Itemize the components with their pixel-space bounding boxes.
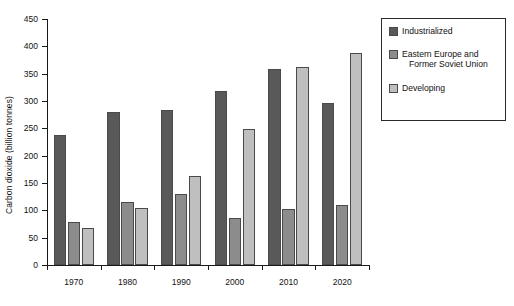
legend-swatch-icon bbox=[389, 50, 398, 59]
bar bbox=[229, 218, 242, 265]
bar-group bbox=[268, 19, 309, 265]
y-tick-label: 300 bbox=[0, 96, 38, 106]
legend-item[interactable]: Developing bbox=[389, 83, 499, 94]
x-tick-mark bbox=[369, 265, 370, 270]
bar-group bbox=[107, 19, 148, 265]
bar bbox=[121, 202, 134, 265]
legend-rows: IndustrializedEastern Europe andFormer S… bbox=[389, 26, 499, 93]
x-tick-label: 1990 bbox=[172, 277, 191, 287]
legend-label: Eastern Europe andFormer Soviet Union bbox=[402, 49, 488, 70]
y-tick-label: 350 bbox=[0, 69, 38, 79]
legend-swatch-icon bbox=[389, 84, 398, 93]
bar bbox=[243, 129, 256, 265]
bar-group bbox=[54, 19, 95, 265]
y-tick-label: 0 bbox=[0, 260, 38, 270]
bar bbox=[215, 91, 228, 265]
x-tick-mark bbox=[101, 265, 102, 270]
y-tick-label: 400 bbox=[0, 41, 38, 51]
bar bbox=[282, 209, 295, 265]
x-tick-label: 2020 bbox=[333, 277, 352, 287]
y-tick-label: 200 bbox=[0, 151, 38, 161]
x-tick-mark bbox=[315, 265, 316, 270]
x-tick-mark bbox=[47, 265, 48, 270]
x-tick-mark bbox=[208, 265, 209, 270]
bar bbox=[268, 69, 281, 265]
bar bbox=[350, 53, 363, 265]
y-tick-label: 50 bbox=[0, 233, 38, 243]
bar bbox=[175, 194, 188, 265]
y-tick-label: 150 bbox=[0, 178, 38, 188]
bar bbox=[336, 205, 349, 265]
legend-label: Industrialized bbox=[402, 26, 453, 37]
bar bbox=[189, 176, 202, 265]
bar bbox=[161, 110, 174, 265]
x-tick-label: 1980 bbox=[118, 277, 137, 287]
bar-group bbox=[215, 19, 256, 265]
bar bbox=[135, 208, 148, 265]
x-tick-mark bbox=[262, 265, 263, 270]
y-tick-label: 100 bbox=[0, 205, 38, 215]
legend: IndustrializedEastern Europe andFormer S… bbox=[381, 18, 506, 121]
bar bbox=[322, 103, 335, 265]
x-tick-label: 2000 bbox=[225, 277, 244, 287]
bar bbox=[107, 112, 120, 265]
y-tick-label: 450 bbox=[0, 14, 38, 24]
legend-swatch-icon bbox=[389, 27, 398, 36]
bar bbox=[54, 135, 67, 265]
x-tick-label: 2010 bbox=[279, 277, 298, 287]
x-tick-label: 1970 bbox=[64, 277, 83, 287]
legend-item[interactable]: Eastern Europe andFormer Soviet Union bbox=[389, 49, 499, 70]
legend-label: Developing bbox=[402, 83, 445, 94]
bar bbox=[68, 222, 81, 265]
bar-group bbox=[322, 19, 363, 265]
bar bbox=[82, 228, 95, 265]
bar-group bbox=[161, 19, 202, 265]
y-tick-label: 250 bbox=[0, 123, 38, 133]
chart-figure: Carbon dioxide (billion tonnes) 05010015… bbox=[0, 0, 514, 306]
x-tick-mark bbox=[154, 265, 155, 270]
bar bbox=[296, 67, 309, 265]
bars-layer bbox=[47, 19, 369, 265]
legend-item[interactable]: Industrialized bbox=[389, 26, 499, 37]
